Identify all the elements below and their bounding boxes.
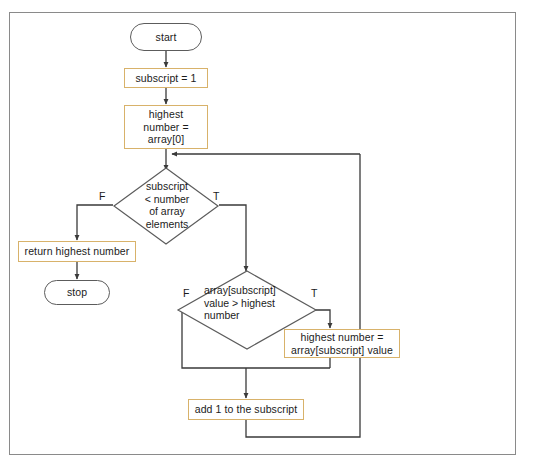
node-return-highest-label: return highest number bbox=[25, 245, 130, 258]
node-return-highest[interactable]: return highest number bbox=[18, 241, 136, 262]
branch-label-compare-false: F bbox=[183, 287, 189, 299]
branch-label-loop-false: F bbox=[99, 190, 105, 202]
branch-label-compare-true: T bbox=[311, 287, 317, 299]
node-assign-highest[interactable]: highest number = array[subscript] value bbox=[284, 329, 400, 358]
node-stop-label: stop bbox=[67, 286, 87, 299]
node-start-label: start bbox=[156, 31, 177, 44]
node-decision-loop[interactable] bbox=[112, 166, 220, 246]
node-init-highest-label: highest number = array[0] bbox=[143, 108, 188, 146]
node-init-subscript-label: subscript = 1 bbox=[135, 72, 196, 85]
node-init-subscript[interactable]: subscript = 1 bbox=[124, 68, 208, 88]
branch-label-loop-true: T bbox=[213, 190, 219, 202]
connector-decision-true-to-compare bbox=[219, 205, 246, 271]
flowchart-figure: start subscript = 1 highest number = arr… bbox=[0, 0, 540, 470]
node-increment[interactable]: add 1 to the subscript bbox=[188, 399, 304, 420]
node-stop[interactable]: stop bbox=[44, 280, 110, 305]
node-assign-highest-label: highest number = array[subscript] value bbox=[291, 331, 393, 356]
node-increment-label: add 1 to the subscript bbox=[195, 403, 298, 416]
connector-decision-false-to-return bbox=[77, 205, 113, 240]
node-init-highest[interactable]: highest number = array[0] bbox=[124, 105, 208, 149]
node-start[interactable]: start bbox=[130, 23, 202, 51]
